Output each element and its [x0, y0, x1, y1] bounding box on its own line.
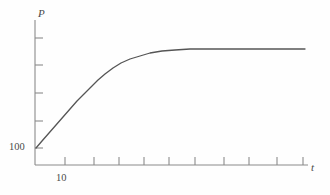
chart-plot-area [0, 0, 330, 195]
x-axis-tick-label-10: 10 [56, 173, 67, 184]
logistic-growth-curve [36, 49, 305, 148]
chart-figure: P t 100 10 [0, 0, 330, 195]
x-axis-title: t [311, 162, 314, 173]
x-axis-ticks [65, 157, 303, 165]
y-axis-title: P [38, 8, 45, 19]
y-axis-tick-label-100: 100 [9, 142, 25, 153]
y-axis-ticks [35, 38, 43, 148]
